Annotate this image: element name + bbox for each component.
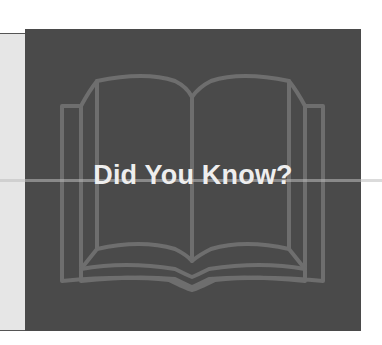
- headline: Did You Know?: [25, 160, 361, 191]
- side-panel: [0, 33, 25, 331]
